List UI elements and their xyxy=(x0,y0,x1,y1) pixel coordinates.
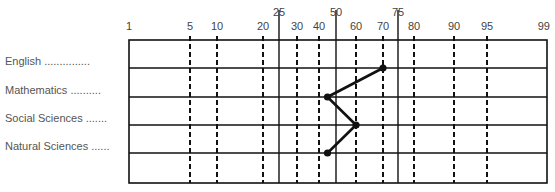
data-point-mathematics xyxy=(324,93,331,100)
tick-label-75: 75 xyxy=(392,6,404,18)
tick-label-10: 10 xyxy=(211,20,223,32)
tick-label-90: 90 xyxy=(448,20,460,32)
tick-label-25: 25 xyxy=(273,6,285,18)
tick-label-99: 99 xyxy=(538,20,550,32)
row-label-english: English ............... xyxy=(5,55,90,67)
row-label-mathematics: Mathematics .......... xyxy=(5,84,101,96)
data-point-natural-sciences xyxy=(324,149,331,156)
tick-label-1: 1 xyxy=(126,20,132,32)
tick-label-60: 60 xyxy=(350,20,362,32)
row-label-natural-sciences: Natural Sciences ...... xyxy=(5,140,110,152)
row-labels: English ...............Mathematics .....… xyxy=(5,55,110,152)
tick-label-20: 20 xyxy=(257,20,269,32)
percentile-profile-chart: 1510203040607080909599255075 English ...… xyxy=(0,0,555,192)
data-point-social-sciences xyxy=(352,121,359,128)
row-label-social-sciences: Social Sciences ....... xyxy=(5,112,107,124)
data-point-english xyxy=(379,64,386,71)
tick-label-70: 70 xyxy=(377,20,389,32)
tick-label-80: 80 xyxy=(408,20,420,32)
tick-label-95: 95 xyxy=(481,20,493,32)
tick-label-5: 5 xyxy=(187,20,193,32)
tick-labels: 1510203040607080909599255075 xyxy=(126,6,550,32)
tick-label-50: 50 xyxy=(330,6,342,18)
tick-label-40: 40 xyxy=(313,20,325,32)
row-lines xyxy=(129,68,547,153)
tick-label-30: 30 xyxy=(291,20,303,32)
plot-frame xyxy=(129,40,547,183)
